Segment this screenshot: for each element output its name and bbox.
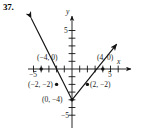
point-label-4-0: (4, 0) xyxy=(97,54,113,62)
point-neg4-0 xyxy=(40,67,43,70)
point-label-neg2-neg2: (−2, −2) xyxy=(28,81,53,89)
x-tick-label-5: 5 xyxy=(108,71,112,79)
y-axis xyxy=(69,16,76,128)
point-neg2-neg2 xyxy=(55,83,58,86)
point-4-0 xyxy=(101,67,104,70)
point-0-neg4 xyxy=(70,98,73,101)
x-axis-label: x xyxy=(117,58,120,66)
y-axis-label: y xyxy=(66,8,69,16)
point-label-2-neg2: (2, −2) xyxy=(90,81,110,89)
y-tick-label-neg5: −5 xyxy=(61,112,69,120)
absolute-value-graph xyxy=(0,0,144,132)
point-label-neg4-0: (−4, 0) xyxy=(37,54,57,62)
y-tick-label-5: 5 xyxy=(64,27,68,35)
point-2-neg2 xyxy=(86,83,89,86)
x-tick-label-neg5: −5 xyxy=(29,71,37,79)
x-axis xyxy=(28,66,131,73)
point-label-0-neg4: (0, −4) xyxy=(42,96,62,104)
